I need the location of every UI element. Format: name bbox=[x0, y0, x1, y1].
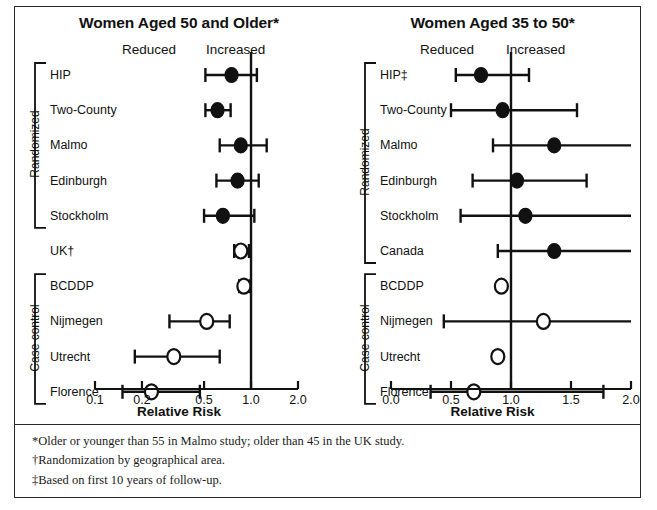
point-estimate-marker-filled bbox=[496, 103, 509, 118]
forest-row bbox=[234, 244, 249, 259]
group-label-case-control: Case control bbox=[28, 288, 42, 388]
group-label-case-control: Case control bbox=[358, 288, 372, 388]
panel-women-50-and-older: Women Aged 50 and Older* Reduced Increas… bbox=[14, 0, 344, 430]
point-estimate-marker-open bbox=[491, 349, 504, 364]
axis-tick-label: 1.0 bbox=[242, 393, 259, 407]
study-label: Nijmegen bbox=[50, 314, 103, 328]
forest-row bbox=[493, 138, 631, 153]
axis-tick-label: 0.1 bbox=[86, 393, 103, 407]
study-label: HIP‡ bbox=[380, 68, 408, 82]
footnotes-block: *Older or younger than 55 in Malmo study… bbox=[32, 432, 622, 490]
forest-row bbox=[498, 244, 631, 259]
axis-tick-label: 2.0 bbox=[622, 393, 639, 407]
forest-row bbox=[495, 279, 508, 294]
point-estimate-marker-filled bbox=[548, 244, 561, 259]
point-estimate-marker-filled bbox=[231, 173, 244, 188]
footnote-2: †Randomization by geographical area. bbox=[32, 451, 622, 470]
study-label: Utrecht bbox=[50, 350, 90, 364]
footnote-1: *Older or younger than 55 in Malmo study… bbox=[32, 432, 622, 451]
study-label: HIP bbox=[50, 68, 71, 82]
point-estimate-marker-open bbox=[237, 279, 250, 294]
panel-women-35-to-50: Women Aged 35 to 50* Reduced Increased R… bbox=[344, 0, 641, 430]
study-label: Edinburgh bbox=[380, 174, 437, 188]
axis-tick-label: 1.0 bbox=[502, 393, 519, 407]
axis-tick-label: 0.5 bbox=[195, 393, 212, 407]
forest-row bbox=[205, 103, 230, 118]
study-label: Two-County bbox=[50, 103, 117, 117]
point-estimate-marker-filled bbox=[548, 138, 561, 153]
footnote-3: ‡Based on first 10 years of follow-up. bbox=[32, 471, 622, 490]
point-estimate-marker-filled bbox=[519, 208, 532, 223]
point-estimate-marker-filled bbox=[216, 208, 229, 223]
forest-row bbox=[491, 349, 504, 364]
forest-row bbox=[444, 314, 631, 329]
study-label: UK† bbox=[50, 244, 74, 258]
forest-row bbox=[461, 208, 631, 223]
study-label: Malmo bbox=[50, 138, 88, 152]
forest-row bbox=[456, 68, 529, 83]
study-label: Malmo bbox=[380, 138, 418, 152]
forest-row bbox=[204, 208, 254, 223]
forest-row bbox=[216, 173, 258, 188]
point-estimate-marker-open bbox=[495, 279, 508, 294]
forest-row bbox=[220, 138, 267, 153]
forest-row bbox=[237, 279, 250, 294]
point-estimate-marker-filled bbox=[234, 138, 247, 153]
point-estimate-marker-open bbox=[200, 314, 213, 329]
forest-row bbox=[205, 68, 256, 83]
forest-plot-figure: Women Aged 50 and Older* Reduced Increas… bbox=[0, 0, 657, 510]
axis-tick-label: 2.0 bbox=[289, 393, 306, 407]
axis-tick-label: 0.0 bbox=[382, 393, 399, 407]
axis-tick-label: 1.5 bbox=[562, 393, 579, 407]
study-label: Nijmegen bbox=[380, 314, 433, 328]
study-label: BCDDP bbox=[50, 279, 94, 293]
axis-tick-label: 0.5 bbox=[442, 393, 459, 407]
footnote-divider bbox=[15, 424, 640, 425]
study-label: Edinburgh bbox=[50, 174, 107, 188]
point-estimate-marker-open bbox=[234, 244, 247, 259]
study-label: BCDDP bbox=[380, 279, 424, 293]
study-label: Stockholm bbox=[50, 209, 108, 223]
point-estimate-marker-filled bbox=[475, 68, 488, 83]
forest-row bbox=[451, 103, 577, 118]
study-label: Canada bbox=[380, 244, 424, 258]
point-estimate-marker-open bbox=[467, 384, 480, 399]
point-estimate-marker-filled bbox=[511, 173, 524, 188]
group-label-randomized: Randomized bbox=[28, 94, 42, 194]
study-label: Two-County bbox=[380, 103, 447, 117]
point-estimate-marker-open bbox=[537, 314, 550, 329]
axis-tick-label: 0.2 bbox=[133, 393, 150, 407]
study-label: Stockholm bbox=[380, 209, 438, 223]
point-estimate-marker-open bbox=[167, 349, 180, 364]
forest-row bbox=[169, 314, 229, 329]
forest-row bbox=[473, 173, 587, 188]
x-axis bbox=[95, 381, 298, 389]
point-estimate-marker-filled bbox=[225, 68, 238, 83]
study-label: Utrecht bbox=[380, 350, 420, 364]
group-label-randomized: Randomized bbox=[358, 112, 372, 212]
forest-row bbox=[135, 349, 220, 364]
point-estimate-marker-filled bbox=[211, 103, 224, 118]
